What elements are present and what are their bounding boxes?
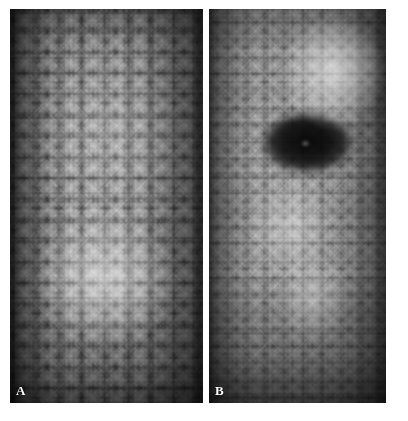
image-grain-a <box>10 9 203 403</box>
panel-b-image <box>209 9 386 403</box>
panel-b: B <box>209 9 386 403</box>
figure-root: A B <box>0 0 408 421</box>
panel-a-image <box>10 9 203 403</box>
panel-a: A <box>10 9 203 403</box>
image-grain-b <box>209 9 386 403</box>
panel-label-a: A <box>16 384 26 397</box>
panel-label-b: B <box>215 384 224 397</box>
